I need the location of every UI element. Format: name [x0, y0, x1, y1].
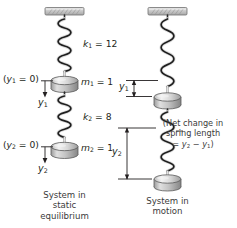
right-system-group	[118, 8, 187, 192]
datum1-subscript: 1	[12, 77, 16, 84]
caption-left-system: System in static equilibrium	[22, 190, 107, 221]
k2-subscript: 2	[88, 115, 92, 122]
note-minus: −	[190, 139, 202, 149]
label-displacement-y2: y2	[112, 147, 122, 158]
datum1-close: )	[35, 73, 39, 84]
note-equals: =	[172, 139, 181, 149]
k1-subscript: 1	[88, 42, 92, 49]
note-line-2: spring length	[150, 128, 236, 138]
label-axis-y1: y1	[38, 98, 48, 109]
label-datum-y2-zero: (y2 = 0)	[3, 140, 39, 151]
right-spring-k1-stretched	[161, 15, 174, 95]
m1-value: 1	[107, 76, 113, 87]
datum1-equals: = 0	[19, 73, 35, 84]
label-displacement-y1: y1	[119, 82, 129, 93]
m2-subscript: 2	[90, 146, 94, 153]
k1-equals: =	[95, 38, 103, 49]
left-mass-m1	[51, 76, 78, 92]
label-spring-constant-k2: k2 = 8	[83, 112, 112, 123]
datum2-close: )	[35, 139, 39, 150]
label-mass-m2: m2 = 1	[81, 143, 113, 154]
note-line-3: = y2 − y1)	[150, 139, 236, 150]
caption-left-line-2: static	[22, 200, 107, 210]
axis-y2-subscript: 2	[44, 167, 48, 174]
label-datum-y1-zero: (y1 = 0)	[3, 74, 39, 85]
datum2-subscript: 2	[12, 143, 16, 150]
k1-value: 12	[106, 38, 118, 49]
right-dimension-y1	[126, 80, 158, 97]
m2-symbol: m	[81, 142, 90, 153]
note-close-paren: )	[210, 139, 213, 149]
right-mass-m1	[154, 93, 181, 109]
left-spring-k2	[58, 92, 71, 144]
left-spring-k1	[58, 15, 71, 78]
label-mass-m1: m1 = 1	[81, 77, 113, 88]
caption-left-line-3: equilibrium	[22, 211, 107, 221]
caption-left-line-1: System in	[22, 190, 107, 200]
label-axis-y2: y2	[38, 164, 48, 175]
note-line-1: (Net change in	[150, 118, 236, 128]
k2-equals: =	[95, 111, 103, 122]
caption-right-system: System in motion	[126, 196, 209, 217]
disp-y2-subscript: 2	[118, 150, 122, 157]
m1-equals: =	[97, 76, 105, 87]
m2-equals: =	[97, 142, 105, 153]
right-ceiling-support	[148, 8, 187, 16]
k2-value: 8	[106, 111, 112, 122]
left-ceiling-support	[45, 8, 84, 16]
m1-symbol: m	[81, 76, 90, 87]
left-system-group	[41, 8, 84, 164]
caption-right-line-1: System in	[126, 196, 209, 206]
caption-right-line-2: motion	[126, 206, 209, 216]
label-spring-constant-k1: k1 = 12	[83, 39, 117, 50]
right-mass-m2	[154, 175, 181, 191]
note-net-change-in-spring-length: (Net change in spring length = y2 − y1)	[150, 118, 236, 149]
left-mass-m2	[51, 142, 78, 158]
disp-y1-subscript: 1	[125, 85, 129, 92]
datum2-equals: = 0	[19, 139, 35, 150]
m1-subscript: 1	[90, 80, 94, 87]
axis-y1-subscript: 1	[44, 101, 48, 108]
